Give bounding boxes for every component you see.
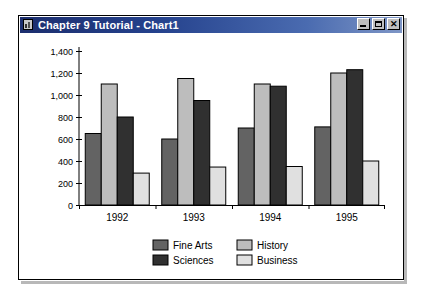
window-controls: ✕: [357, 18, 400, 30]
y-axis-tick-label: 1,200: [50, 69, 73, 79]
bar: [162, 139, 178, 205]
bar: [286, 167, 302, 206]
bar: [194, 101, 210, 206]
x-axis-tick-label: 1993: [183, 212, 206, 223]
bar: [178, 79, 194, 206]
plot-area: [85, 70, 379, 205]
maximize-button[interactable]: [372, 18, 385, 30]
legend-label: Sciences: [173, 255, 214, 266]
bar: [117, 117, 133, 205]
bar: [270, 86, 286, 205]
window-shadow-bottom: [21, 281, 407, 284]
bar: [363, 161, 379, 205]
bar: [133, 173, 149, 205]
screen: Chapter 9 Tutorial - Chart1 ✕ 0200400600…: [0, 0, 422, 299]
y-axis-tick-label: 200: [58, 179, 73, 189]
y-axis-tick-label: 1,000: [50, 91, 73, 101]
y-axis-tick-label: 800: [58, 113, 73, 123]
y-axis-tick-label: 1,400: [50, 47, 73, 57]
bar: [347, 70, 363, 205]
x-axis-tick-label: 1994: [259, 212, 282, 223]
chart-legend: Fine ArtsHistorySciencesBusiness: [153, 240, 298, 266]
window-shadow-right: [404, 18, 407, 284]
bar: [101, 84, 117, 205]
bar: [210, 167, 226, 205]
close-icon: ✕: [388, 19, 399, 29]
bar: [238, 128, 254, 205]
y-axis: 02004006008001,0001,2001,400: [50, 47, 82, 211]
legend-label: Fine Arts: [173, 240, 212, 251]
y-axis-tick-label: 400: [58, 157, 73, 167]
bar: [315, 127, 331, 205]
legend-swatch: [237, 255, 252, 265]
bar: [331, 73, 347, 205]
bar-chart: 02004006008001,0001,2001,400 19921993199…: [20, 34, 404, 280]
x-axis: 1992199319941995: [79, 205, 385, 223]
legend-swatch: [237, 240, 252, 250]
legend-swatch: [153, 255, 168, 265]
y-axis-tick-label: 0: [68, 201, 73, 211]
legend-label: Business: [257, 255, 298, 266]
legend-swatch: [153, 240, 168, 250]
chart-document-icon: [22, 19, 35, 31]
y-axis-tick-label: 600: [58, 135, 73, 145]
bar: [85, 134, 101, 206]
x-axis-tick-label: 1992: [106, 212, 129, 223]
x-axis-tick-label: 1995: [336, 212, 359, 223]
window-title: Chapter 9 Tutorial - Chart1: [38, 17, 179, 33]
window-titlebar[interactable]: Chapter 9 Tutorial - Chart1 ✕: [20, 17, 402, 33]
bar: [254, 84, 270, 205]
window-client-area: 02004006008001,0001,2001,400 19921993199…: [20, 34, 402, 278]
minimize-button[interactable]: [357, 18, 370, 30]
close-button[interactable]: ✕: [387, 18, 400, 30]
chart-svg: 02004006008001,0001,2001,400 19921993199…: [20, 34, 404, 280]
chart-window: Chapter 9 Tutorial - Chart1 ✕ 0200400600…: [18, 15, 404, 280]
legend-label: History: [257, 240, 288, 251]
